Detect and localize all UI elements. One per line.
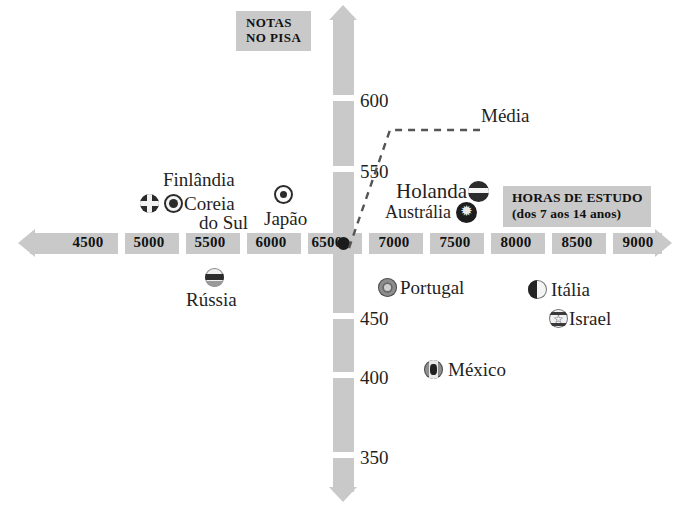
y-tick-label-350: 350	[360, 447, 389, 469]
country-label-japao: Japão	[264, 209, 307, 229]
y-axis-title-line2: NO PISA	[246, 30, 301, 45]
country-label-finlandia: Finlândia	[163, 170, 235, 190]
x-tick-notch	[606, 233, 613, 254]
country-label-do-sul: do Sul	[199, 213, 248, 233]
country-label-coreia: Coreia	[184, 194, 235, 214]
country-label-russia: Rússia	[186, 290, 237, 310]
flag-italy-icon	[528, 280, 547, 299]
y-axis-title-banner: NOTAS NO PISA	[236, 11, 311, 51]
x-axis-right-arrow-icon	[655, 229, 672, 257]
x-tick-label-5500: 5500	[194, 234, 225, 251]
flag-netherlands-icon	[468, 181, 489, 202]
x-tick-notch	[301, 233, 308, 254]
flag-australia-icon	[456, 202, 477, 223]
x-axis-title-line1: HORAS DE ESTUDO	[512, 190, 643, 206]
country-label-mexico: México	[448, 360, 506, 380]
flag-portugal-icon	[378, 278, 397, 297]
x-axis-left-arrow-icon	[18, 229, 35, 257]
country-label-holanda: Holanda	[396, 180, 467, 202]
x-tick-notch	[179, 233, 186, 254]
point-italia[interactable]: Itália	[528, 280, 590, 300]
point-label-russia: Rússia	[186, 290, 237, 310]
y-axis-down-arrow-icon	[329, 487, 357, 502]
y-axis-title-line1: NOTAS	[246, 15, 301, 30]
country-label-portugal: Portugal	[400, 278, 464, 298]
point-japao[interactable]	[274, 185, 293, 204]
point-label-coreia-do-sul-line2: do Sul	[199, 213, 248, 233]
x-axis-title-line2: (dos 7 aos 14 anos)	[512, 206, 643, 222]
point-label-japao: Japão	[264, 209, 307, 229]
flag-korea-icon	[164, 194, 183, 213]
x-tick-label-9000: 9000	[622, 234, 653, 251]
star-of-david-icon: ☆	[549, 309, 568, 328]
flag-russia-icon	[205, 268, 224, 287]
y-tick-label-450: 450	[360, 308, 389, 330]
point-australia[interactable]: Austrália	[385, 202, 477, 223]
country-label-italia: Itália	[551, 280, 590, 300]
point-finlandia[interactable]	[140, 194, 159, 213]
point-label-finlandia: Finlândia	[163, 170, 235, 190]
point-israel[interactable]: ☆ Israel	[549, 309, 611, 329]
y-tick-label-400: 400	[360, 367, 389, 389]
y-axis-up-arrow-icon	[329, 5, 357, 20]
y-tick-notch	[333, 313, 354, 319]
flag-japan-icon	[274, 185, 293, 204]
country-label-australia: Austrália	[385, 203, 451, 222]
flag-finland-icon	[140, 194, 159, 213]
country-label-israel: Israel	[569, 309, 611, 329]
media-annotation-label: Média	[481, 105, 530, 127]
x-tick-notch	[118, 233, 125, 254]
x-axis-title-banner: HORAS DE ESTUDO (dos 7 aos 14 anos)	[503, 186, 651, 227]
flag-mexico-icon	[424, 360, 443, 379]
x-tick-label-8000: 8000	[500, 234, 531, 251]
point-mexico[interactable]: México	[424, 360, 506, 380]
point-holanda[interactable]: Holanda	[396, 180, 489, 202]
y-tick-notch	[333, 452, 354, 458]
x-tick-label-8500: 8500	[561, 234, 592, 251]
point-coreia-do-sul[interactable]: Coreia	[164, 194, 235, 214]
x-tick-label-5000: 5000	[133, 234, 164, 251]
x-tick-notch	[240, 233, 247, 254]
chart-canvas: 4500 5000 5500 6000 6500 7000 7500 8000 …	[0, 0, 673, 509]
point-portugal[interactable]: Portugal	[378, 278, 464, 298]
x-tick-notch	[545, 233, 552, 254]
flag-israel-icon: ☆	[549, 309, 568, 328]
point-russia[interactable]	[205, 268, 224, 287]
x-tick-label-6000: 6000	[255, 234, 286, 251]
y-tick-notch	[333, 372, 354, 378]
x-tick-label-4500: 4500	[72, 234, 103, 251]
